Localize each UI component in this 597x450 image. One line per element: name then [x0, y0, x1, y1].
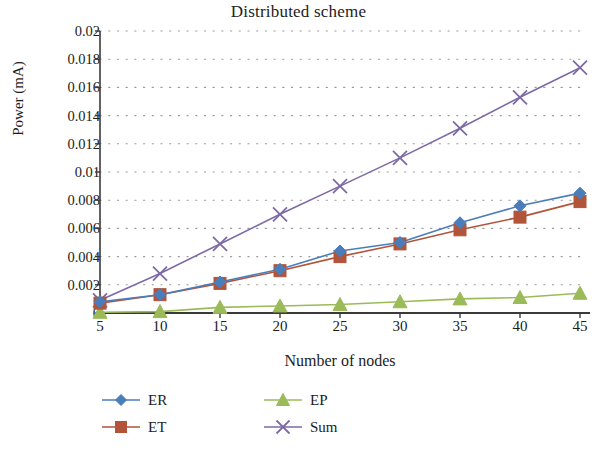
legend-marker-ep	[262, 392, 304, 408]
legend-item-er: ER	[100, 392, 167, 408]
legend-label-ep: EP	[310, 393, 328, 408]
chart-legend: ER ET EP Sum	[96, 392, 426, 448]
chart-figure: Distributed scheme Power (mA) 00.0020.00…	[0, 0, 597, 450]
legend-label-et: ET	[148, 420, 166, 435]
legend-marker-er	[100, 392, 142, 408]
legend-item-sum: Sum	[262, 419, 338, 435]
legend-item-et: ET	[100, 419, 166, 435]
legend-label-sum: Sum	[310, 420, 338, 435]
legend-marker-sum	[262, 419, 304, 435]
plot-area	[0, 0, 597, 450]
legend-label-er: ER	[148, 393, 167, 408]
legend-marker-et	[100, 419, 142, 435]
legend-item-ep: EP	[262, 392, 328, 408]
